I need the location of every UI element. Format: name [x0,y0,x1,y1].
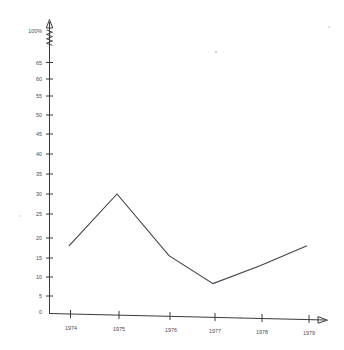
paper-speck [215,51,217,53]
x-tick-label: 1974 [65,325,77,331]
y-tick-label: 0 [39,309,42,315]
y-tick-label: 15 [36,255,42,261]
x-tick-label: 1975 [113,326,125,332]
line-chart: 100% 65 60 55 50 45 40 35 30 25 20 15 10… [0,0,344,350]
data-series-line [69,194,307,284]
y-tick-label: 25 [36,211,42,217]
x-tick-label: 1976 [165,327,177,333]
x-tick-label: 1978 [256,329,268,335]
x-axis: 1974 1975 1976 1977 1978 1979 [50,310,328,336]
y-axis: 100% 65 60 55 50 45 40 35 30 25 20 15 10… [28,20,53,316]
x-tick-label: 1977 [209,328,221,334]
paper-speck [328,26,330,28]
y-tick-label: 20 [36,235,42,241]
y-tick-label: 55 [36,93,42,99]
x-tick-label: 1979 [303,330,315,336]
y-tick-label: 45 [36,131,42,137]
y-tick-label: 60 [36,76,42,82]
y-axis-top-label: 100% [28,28,42,34]
y-tick-label: 35 [36,171,42,177]
y-tick-label: 50 [36,112,42,118]
y-tick-label: 65 [36,60,42,66]
paper-speck [19,215,21,217]
x-axis-line [50,314,326,321]
y-tick-label: 5 [39,293,42,299]
y-tick-label: 30 [36,191,42,197]
y-tick-label: 10 [36,274,42,280]
y-tick-label: 40 [36,151,42,157]
chart-container: 100% 65 60 55 50 45 40 35 30 25 20 15 10… [0,0,344,350]
